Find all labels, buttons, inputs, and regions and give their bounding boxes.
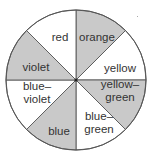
label-violet: violet <box>23 61 51 73</box>
scan-speck <box>137 16 138 17</box>
center-dot <box>74 78 77 81</box>
label-red: red <box>52 31 69 43</box>
label-orange: orange <box>79 31 115 43</box>
label-blue: blue <box>48 125 70 137</box>
color-wheel: orangeyellowyellow–greenblue–greenbluebl… <box>0 0 149 156</box>
label-yellow-green: yellow–green <box>101 78 140 103</box>
label-blue-violet: blue–violet <box>23 80 52 105</box>
label-yellow: yellow <box>104 62 137 74</box>
label-blue-green: blue–green <box>84 110 113 135</box>
